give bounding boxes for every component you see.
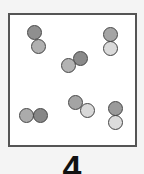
- molecule-5-atom-2-icon: [80, 103, 95, 118]
- molecule-3-atom-1-icon: [103, 27, 118, 42]
- molecule-1-atom-1-icon: [27, 25, 42, 40]
- molecule-6-atom-2-icon: [108, 115, 123, 130]
- figure-label: 4: [0, 150, 144, 174]
- molecule-3-atom-2-icon: [103, 41, 118, 56]
- molecule-1-atom-2-icon: [31, 39, 46, 54]
- molecule-2-atom-2-icon: [61, 58, 76, 73]
- molecule-4-atom-2-icon: [33, 108, 48, 123]
- molecule-6-atom-1-icon: [108, 101, 123, 116]
- molecule-4-atom-1-icon: [19, 108, 34, 123]
